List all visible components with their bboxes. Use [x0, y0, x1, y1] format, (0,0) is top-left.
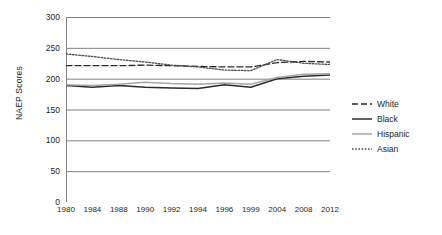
y-axis-tick-label: 100: [32, 136, 60, 145]
naep-scores-line-chart: NAEP Scores 050100150200250300 198019841…: [0, 0, 442, 235]
y-axis-tick-label: 250: [32, 44, 60, 53]
legend-label: Asian: [377, 144, 398, 154]
legend-item-white[interactable]: White: [352, 96, 440, 111]
legend-label: Hispanic: [377, 129, 410, 139]
x-axis-tick-label: 1988: [106, 206, 132, 214]
x-axis-tick-label: 2012: [317, 206, 343, 214]
y-axis-title: NAEP Scores: [14, 48, 24, 138]
y-axis-tick-label: 50: [32, 167, 60, 176]
series-line-white: [66, 61, 330, 67]
chart-legend: WhiteBlackHispanicAsian: [352, 96, 440, 156]
x-axis-tick-label: 1992: [159, 206, 185, 214]
x-axis-tick-label: 1996: [211, 206, 237, 214]
legend-label: Black: [377, 114, 398, 124]
x-axis-tick-label: 2008: [291, 206, 317, 214]
legend-item-asian[interactable]: Asian: [352, 141, 440, 156]
legend-swatch-white-icon: [352, 99, 372, 109]
x-axis-tick-label: 1984: [79, 206, 105, 214]
x-axis-tick-label: 1990: [132, 206, 158, 214]
legend-item-black[interactable]: Black: [352, 111, 440, 126]
x-axis-tick-label: 1980: [53, 206, 79, 214]
legend-swatch-asian-icon: [352, 144, 372, 154]
legend-swatch-black-icon: [352, 114, 372, 124]
y-axis-tick-label: 300: [32, 13, 60, 22]
legend-label: White: [377, 99, 399, 109]
plot-area: [66, 17, 330, 202]
x-axis-tick-label: 2004: [264, 206, 290, 214]
x-axis-tick-label: 1994: [185, 206, 211, 214]
y-axis-tick-label: 200: [32, 75, 60, 84]
y-axis-tick-label: 150: [32, 106, 60, 115]
x-axis-tick-label: 1999: [238, 206, 264, 214]
plot-svg: [66, 17, 330, 202]
legend-swatch-hispanic-icon: [352, 129, 372, 139]
series-line-black: [66, 75, 330, 89]
legend-item-hispanic[interactable]: Hispanic: [352, 126, 440, 141]
